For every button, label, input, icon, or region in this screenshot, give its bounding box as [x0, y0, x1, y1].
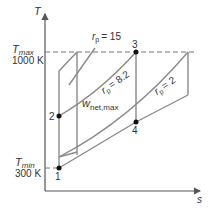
point-2-label: 2 — [49, 111, 55, 122]
wnet-max-label: wnet,max — [82, 97, 118, 112]
rp15-leader — [69, 48, 95, 85]
rp15-label: rp= 15 — [92, 31, 121, 44]
point-2 — [57, 114, 62, 119]
cycle-rp-2 — [59, 52, 188, 157]
x-axis-label: s — [197, 194, 202, 205]
tmax-label: Tmax 1000 K — [12, 43, 44, 66]
point-1-label: 1 — [55, 171, 61, 182]
svg-text:1000 K: 1000 K — [12, 55, 44, 66]
ts-diagram: T s 1 2 3 4 Tmax 1000 K Tmin 300 K — [0, 0, 215, 211]
point-3 — [134, 50, 139, 55]
tmin-label: Tmin 300 K — [15, 156, 41, 179]
point-4-label: 4 — [132, 125, 138, 136]
svg-text:300 K: 300 K — [15, 168, 41, 179]
y-axis-label: T — [34, 5, 42, 17]
point-3-label: 3 — [132, 39, 138, 50]
point-4 — [134, 120, 139, 125]
point-1 — [57, 166, 62, 171]
